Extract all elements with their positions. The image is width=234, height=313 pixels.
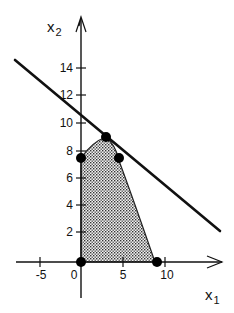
x-axis-label: x1 [205,286,220,306]
x-tick-label: 0 [71,268,78,282]
y-tick-label: 6 [66,171,73,185]
vertex-point [76,153,86,163]
x-tick-label: 10 [160,268,174,282]
y-tick-label: 14 [60,61,74,75]
y-tick-label: 2 [66,225,73,239]
vertex-point [114,153,124,163]
x-tick-label: -5 [36,268,47,282]
vertex-point [76,257,86,267]
x-axis: -5 0 5 10 x1 [16,256,222,306]
vertex-point [101,132,111,142]
y-tick-label: 8 [66,144,73,158]
vertex-point [152,257,162,267]
y-tick-label: 4 [66,198,73,212]
chart: -5 0 5 10 x1 14 12 10 8 6 4 2 x2 [0,0,234,313]
x-tick-label: 5 [120,268,127,282]
y-axis-label: x2 [47,18,62,38]
y-tick-label: 10 [60,116,74,130]
